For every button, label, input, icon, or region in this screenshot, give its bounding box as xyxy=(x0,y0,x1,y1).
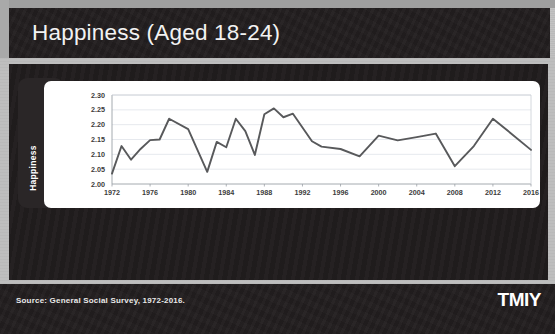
x-tick-label: 1976 xyxy=(142,188,158,197)
x-tick-label: 1984 xyxy=(218,188,234,197)
chart-plot-area: 2.002.052.102.152.202.252.30197219761980… xyxy=(44,81,540,208)
tmiy-logo: TMIY xyxy=(498,289,541,311)
page-title: Happiness (Aged 18-24) xyxy=(9,20,280,46)
source-note: Source: General Social Survey, 1972-2016… xyxy=(16,296,185,305)
data-series-line xyxy=(112,108,531,173)
line-chart: 2.002.052.102.152.202.252.30197219761980… xyxy=(44,81,540,208)
y-axis-label: Happiness xyxy=(26,112,40,224)
x-tick-label: 2000 xyxy=(371,188,387,197)
y-axis-label-text: Happiness xyxy=(28,145,38,191)
x-tick-label: 2016 xyxy=(523,188,539,197)
x-tick-label: 1996 xyxy=(333,188,349,197)
page-edge-top xyxy=(0,0,555,8)
y-tick-label: 2.00 xyxy=(91,180,105,189)
y-tick-label: 2.30 xyxy=(91,91,105,100)
x-tick-label: 2008 xyxy=(447,188,463,197)
footer-bar: Source: General Social Survey, 1972-2016… xyxy=(0,284,555,334)
x-tick-label: 1980 xyxy=(180,188,196,197)
y-tick-label: 2.10 xyxy=(91,150,105,159)
x-tick-label: 1992 xyxy=(294,188,310,197)
chart-card: 2.002.052.102.152.202.252.30197219761980… xyxy=(44,81,540,208)
x-tick-label: 2012 xyxy=(485,188,501,197)
y-tick-label: 2.20 xyxy=(91,120,105,129)
y-tick-label: 2.25 xyxy=(91,105,105,114)
y-tick-label: 2.05 xyxy=(91,165,105,174)
y-tick-label: 2.15 xyxy=(91,135,105,144)
x-tick-label: 1972 xyxy=(104,188,120,197)
x-tick-label: 2004 xyxy=(409,188,425,197)
x-tick-label: 1988 xyxy=(256,188,272,197)
slide-root: Happiness (Aged 18-24) Happiness 2.002.0… xyxy=(0,0,555,334)
title-bar: Happiness (Aged 18-24) xyxy=(9,8,550,58)
